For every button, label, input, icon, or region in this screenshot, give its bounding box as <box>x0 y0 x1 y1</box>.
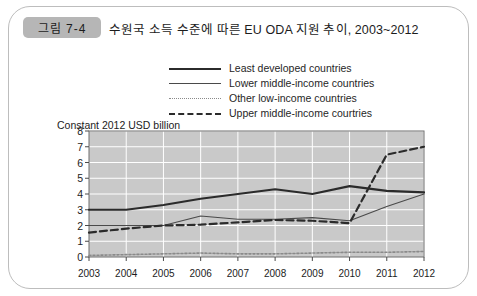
x-tick-2010: 2010 <box>338 268 360 279</box>
legend-label-upper-middle: Upper middle-income courtries <box>229 107 372 119</box>
x-tick-2005: 2005 <box>152 268 174 279</box>
legend-item-upper-middle: Upper middle-income courtries <box>169 106 374 119</box>
x-tick-2003: 2003 <box>78 268 100 279</box>
y-tick-2: 2 <box>61 220 83 232</box>
x-tick-2011: 2011 <box>376 268 398 279</box>
chart-legend: Least developed countries Lower middle-i… <box>169 61 374 119</box>
legend-swatch-upper-middle <box>169 107 221 119</box>
legend-item-least-developed: Least developed countries <box>169 61 374 74</box>
legend-swatch-least-developed <box>169 62 221 74</box>
y-tick-7: 7 <box>61 141 83 153</box>
y-tick-8: 8 <box>61 125 83 137</box>
legend-label-least-developed: Least developed countries <box>229 62 352 74</box>
x-tick-2012: 2012 <box>413 268 435 279</box>
y-tick-4: 4 <box>61 188 83 200</box>
x-tick-2006: 2006 <box>190 268 212 279</box>
legend-swatch-lower-middle <box>169 77 221 89</box>
legend-item-other-low: Other low-income countries <box>169 91 374 104</box>
legend-item-lower-middle: Lower middle-income countries <box>169 76 374 89</box>
x-tick-2007: 2007 <box>227 268 249 279</box>
x-tick-2004: 2004 <box>115 268 137 279</box>
y-tick-1: 1 <box>61 235 83 247</box>
y-tick-6: 6 <box>61 157 83 169</box>
legend-label-other-low: Other low-income countries <box>229 92 357 104</box>
y-tick-3: 3 <box>61 204 83 216</box>
y-tick-5: 5 <box>61 172 83 184</box>
legend-label-lower-middle: Lower middle-income countries <box>229 77 374 89</box>
figure-number-badge: 그림 7-4 <box>23 17 101 38</box>
x-tick-2008: 2008 <box>264 268 286 279</box>
y-tick-0: 0 <box>61 251 83 263</box>
figure-card: 그림 7-4 수원국 소득 수준에 따른 EU ODA 지원 추이, 2003~… <box>8 6 469 289</box>
x-tick-2009: 2009 <box>301 268 323 279</box>
figure-title: 수원국 소득 수준에 따른 EU ODA 지원 추이, 2003~2012 <box>109 19 419 38</box>
legend-swatch-other-low <box>169 92 221 104</box>
